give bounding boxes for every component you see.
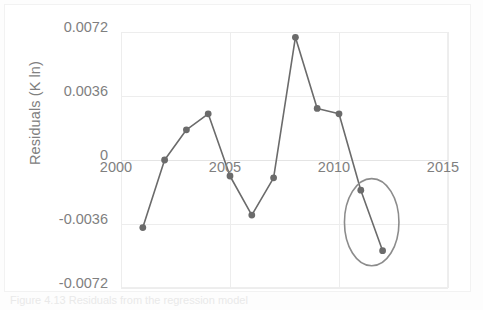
x-tick-label: 2000 xyxy=(86,160,146,174)
y-tick-label: 0.0072 xyxy=(8,20,108,34)
chart-frame: Residuals (K ln) 0.00720.00360-0.0036-0.… xyxy=(4,4,471,292)
x-tick-label: 2010 xyxy=(304,160,364,174)
y-tick-label: 0.0036 xyxy=(8,84,108,98)
x-tick-label: 2015 xyxy=(413,160,473,174)
y-axis-title: Residuals (K ln) xyxy=(27,33,51,193)
y-tick-label: -0.0036 xyxy=(8,212,108,226)
plot-area xyxy=(121,32,448,288)
residuals-chart-figure: Residuals (K ln) 0.00720.00360-0.0036-0.… xyxy=(0,0,483,310)
y-tick-label: -0.0072 xyxy=(8,276,108,290)
figure-caption: Figure 4.13 Residuals from the regressio… xyxy=(10,294,470,308)
x-tick-label: 2005 xyxy=(195,160,255,174)
